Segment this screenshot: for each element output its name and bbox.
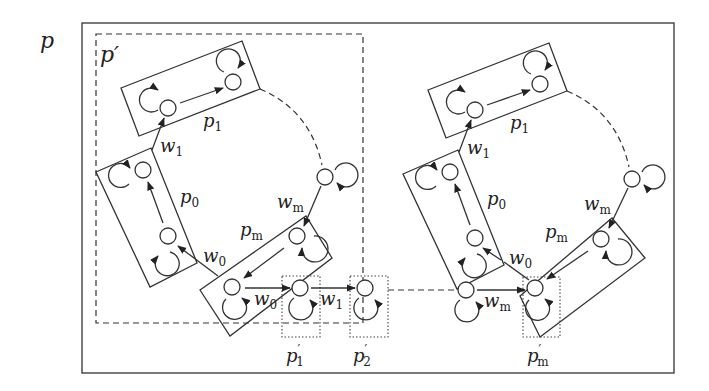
- label-w0: w0: [203, 245, 226, 269]
- label-w1: w1: [160, 135, 183, 159]
- dashed-arc: [260, 89, 322, 165]
- label-p: p: [40, 28, 54, 53]
- transition-arrow: [487, 90, 530, 105]
- self-loop: [289, 298, 313, 320]
- label-p1-prime: p′1: [286, 343, 304, 369]
- label-w0: w0: [509, 247, 532, 271]
- label-pm: pm: [240, 219, 264, 243]
- dashed-arc: [567, 91, 629, 167]
- state-circle: [224, 279, 240, 295]
- label-pm: pm: [545, 221, 569, 245]
- self-loop: [523, 51, 547, 74]
- state-circle: [317, 169, 333, 185]
- self-loop: [416, 165, 437, 189]
- self-loop: [139, 88, 158, 112]
- state-circle: [467, 102, 483, 118]
- label-pm-prime: p′m: [527, 343, 549, 369]
- state-circle: [467, 230, 483, 246]
- label-wm: wm: [277, 191, 304, 215]
- state-circle: [135, 162, 151, 178]
- automaton-diagram: p p′ w1 p1 p0 wm: [0, 0, 709, 391]
- state-circle: [160, 228, 176, 244]
- label-p1: p1: [510, 112, 529, 136]
- label-p0: p0: [180, 186, 199, 210]
- state-circle: [458, 282, 474, 298]
- left-cluster: w1 p1 p0 wm pm w0 w0 p′1 w1 p′2: [96, 41, 388, 369]
- label-wm-bottom: wm: [484, 290, 511, 314]
- transition-arrow: [455, 184, 470, 225]
- label-wm: wm: [584, 193, 611, 217]
- self-loop: [354, 298, 378, 320]
- state-circle: [357, 280, 373, 296]
- self-loop: [223, 298, 247, 319]
- self-loop: [455, 300, 479, 322]
- box-pm: [520, 218, 645, 337]
- self-loop: [155, 252, 179, 276]
- transition-arrow: [148, 182, 163, 223]
- self-loop: [216, 49, 240, 72]
- self-loop: [335, 163, 358, 187]
- state-circle: [593, 231, 609, 247]
- right-cluster: w1 p1 p0 wm pm w0 wm p′m: [403, 43, 665, 369]
- label-w1-bottom: w1: [320, 288, 343, 312]
- label-p-prime: p′: [100, 42, 119, 67]
- self-loop: [446, 90, 465, 114]
- transition-wm: [609, 188, 628, 228]
- self-loop: [642, 165, 665, 189]
- self-loop: [526, 299, 550, 320]
- label-w1: w1: [467, 137, 490, 161]
- state-circle: [292, 280, 308, 296]
- state-circle: [527, 280, 543, 296]
- transition-arrow: [180, 88, 223, 103]
- transition-wm: [304, 186, 321, 226]
- state-circle: [160, 100, 176, 116]
- self-loop: [462, 254, 486, 278]
- state-circle: [225, 74, 241, 90]
- state-circle: [532, 76, 548, 92]
- self-loop: [109, 163, 130, 187]
- label-p2-prime: p′2: [353, 343, 371, 369]
- self-loop: [302, 236, 328, 262]
- state-circle: [442, 164, 458, 180]
- box-pm: [200, 216, 332, 336]
- state-circle: [289, 228, 305, 244]
- label-w0-bottom: w0: [254, 288, 277, 312]
- self-loop: [606, 239, 632, 265]
- state-circle: [624, 171, 640, 187]
- label-p0: p0: [487, 188, 506, 212]
- label-p1: p1: [203, 110, 222, 134]
- transition-arrow: [244, 248, 284, 278]
